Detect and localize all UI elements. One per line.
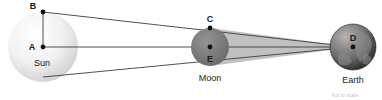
point-a-marker [41, 45, 46, 50]
point-b-marker [41, 10, 46, 15]
point-label-b: B [30, 1, 37, 11]
point-label-a: A [29, 42, 36, 52]
point-label-c: C [207, 14, 214, 24]
footnote-text: Not to scale [332, 92, 359, 98]
point-label-e: E [207, 54, 213, 64]
point-c-marker [208, 26, 213, 31]
body-label-moon: Moon [199, 73, 222, 83]
body-label-sun: Sun [34, 58, 50, 68]
point-e-marker [208, 45, 213, 50]
diagram-canvas: B A C E D Sun Moon Earth Not to scale [0, 0, 382, 100]
eclipse-diagram: B A C E D Sun Moon Earth Not to scale [0, 0, 382, 100]
point-label-d: D [350, 33, 357, 43]
body-label-earth: Earth [342, 75, 364, 85]
point-d-marker [351, 45, 356, 50]
